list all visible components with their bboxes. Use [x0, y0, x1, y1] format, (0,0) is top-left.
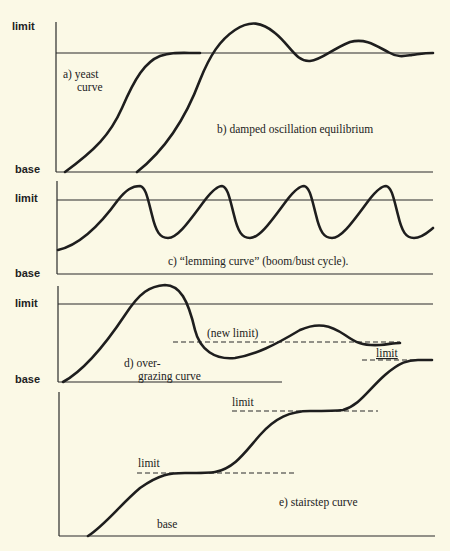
population-curves-diagram: limit base a) yeast curve b) damped osci… — [0, 0, 450, 551]
stairstep-curve-label: e) stairstep curve — [279, 496, 358, 509]
yeast-curve-label: a) yeast — [63, 68, 99, 81]
lemming-curve-label: c) “lemming curve” (boom/bust cycle). — [168, 255, 349, 268]
stairstep-curve — [88, 360, 432, 536]
base-label: base — [15, 267, 40, 279]
panel-c: limit base c) “lemming curve” (boom/bust… — [15, 181, 433, 279]
new-limit-label: (new limit) — [207, 327, 259, 340]
damped-oscillation-label: b) damped oscillation equilibrium — [217, 123, 373, 136]
limit-label-1: limit — [138, 457, 161, 469]
limit-small-label: limit — [376, 347, 399, 359]
limit-label: limit — [12, 20, 35, 32]
limit-label: limit — [15, 192, 38, 204]
panel-e: limit limit base e) stairstep curve — [59, 360, 435, 536]
panel-ab: limit base a) yeast curve b) damped osci… — [12, 20, 433, 175]
lemming-curve — [58, 186, 433, 250]
base-label: base — [157, 518, 177, 530]
overgrazing-label: d) over- — [124, 357, 161, 370]
limit-label: limit — [15, 297, 38, 309]
yeast-curve-label-2: curve — [77, 81, 103, 93]
base-label: base — [15, 163, 40, 175]
damped-oscillation-curve — [137, 24, 433, 172]
overgrazing-label-2: grazing curve — [138, 370, 201, 383]
panel-d: limit base (new limit) limit d) over- gr… — [15, 285, 433, 385]
limit-label-2: limit — [232, 396, 255, 408]
base-label: base — [15, 373, 40, 385]
